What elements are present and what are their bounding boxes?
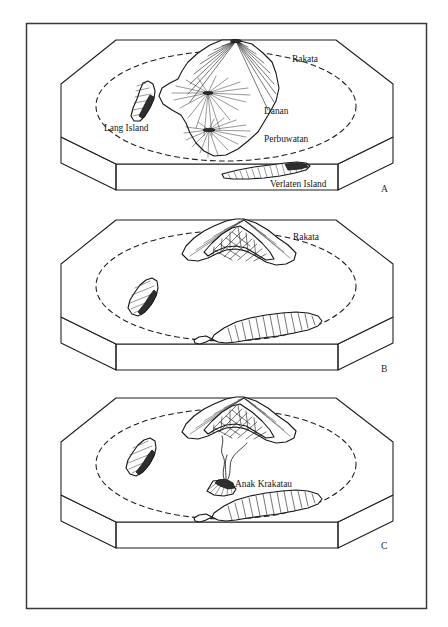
panel-b: Rakata B [61,219,393,374]
panel-a: Rakata Danan Perbuwatan Lang Island Verl… [61,39,393,194]
perbuwatan-label-a: Perbuwatan [264,134,309,144]
panel-letter-a: A [381,183,388,194]
rakata-label-a: Rakata [292,54,319,64]
panel-letter-b: B [381,363,387,374]
panel-c: Anak Krakatau C [61,397,393,551]
verlaten-island-label-a: Verlaten Island [270,179,327,189]
panel-a-danan-crater [203,92,213,95]
panel-b-front-face [116,344,338,370]
anak-krakatau-label-c: Anak Krakatau [235,479,292,489]
krakatau-figure: Rakata Danan Perbuwatan Lang Island Verl… [0,0,448,627]
panel-letter-c: C [381,540,387,551]
panel-a-rakata-crater [231,39,242,42]
lang-island-label-a: Lang Island [104,123,149,133]
rakata-label-b: Rakata [293,232,320,242]
panel-a-perbuwatan-crater [203,128,215,131]
danan-label-a: Danan [264,106,289,116]
panel-c-front-face [116,522,338,548]
figure-canvas: Rakata Danan Perbuwatan Lang Island Verl… [0,0,448,627]
